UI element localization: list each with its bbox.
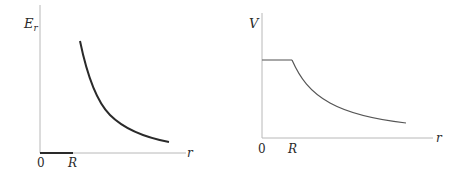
right-x-label: r	[436, 131, 443, 145]
figure: Er r 0 R V r 0 R	[0, 0, 469, 173]
left-y-label: Er	[23, 16, 39, 33]
left-tick-r: R	[67, 156, 77, 170]
right-potential-curve	[292, 60, 406, 123]
right-plot-v: V r 0 R	[249, 13, 443, 156]
left-tick-zero: 0	[37, 156, 45, 170]
left-plot-er: Er r 0 R	[23, 5, 194, 170]
right-tick-r: R	[287, 142, 297, 156]
right-tick-zero: 0	[258, 142, 266, 156]
left-x-label: r	[187, 146, 194, 160]
right-y-label: V	[249, 16, 260, 31]
left-field-curve	[80, 41, 169, 142]
